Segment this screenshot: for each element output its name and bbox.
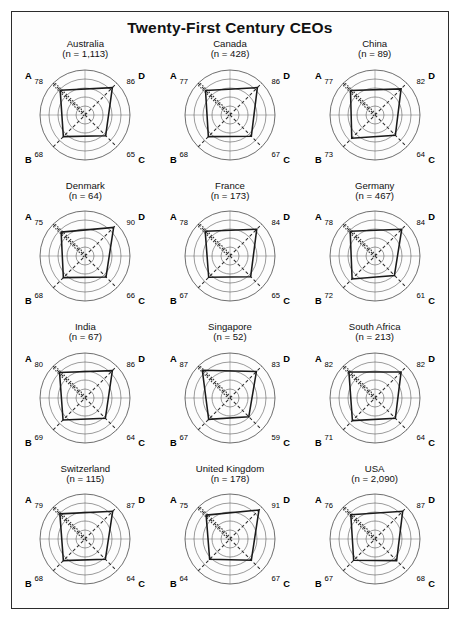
axis-value-d: 86 (127, 77, 135, 86)
axis-label-a: A (315, 495, 322, 505)
axis-label-b: B (25, 438, 32, 448)
radar-panel: USA(n = 2,090)A76D87B67C68 (302, 463, 447, 605)
axis-label-d: D (283, 495, 290, 505)
radar-panel: Australia(n = 1,113)A78D86B68C65 (13, 38, 158, 180)
radar-panel: India(n = 67)A80D86B69C64 (13, 321, 158, 463)
axis-value-c: 64 (416, 433, 424, 442)
radar-panel: Switzerland(n = 115)A79D87B68C64 (13, 463, 158, 605)
axis-label-a: A (25, 71, 32, 81)
axis-label-c: C (428, 438, 435, 448)
axis-label-b: B (315, 438, 322, 448)
axis-value-b: 67 (179, 433, 187, 442)
axis-value-d: 87 (127, 501, 135, 510)
axis-label-a: A (25, 495, 32, 505)
axis-value-a: 78 (35, 77, 43, 86)
axis-value-c: 67 (272, 150, 280, 159)
axis-value-c: 67 (272, 574, 280, 583)
axis-label-d: D (428, 495, 435, 505)
axis-label-d: D (428, 212, 435, 222)
radar-plot: A87D83B67C59 (166, 342, 294, 454)
axis-value-c: 65 (127, 150, 135, 159)
axis-value-b: 68 (35, 150, 43, 159)
axis-label-d: D (428, 354, 435, 364)
axis-value-c: 68 (416, 574, 424, 583)
axis-label-a: A (170, 354, 177, 364)
axis-label-c: C (139, 155, 146, 165)
axis-label-d: D (139, 354, 146, 364)
radar-plot: A75D91B64C67 (166, 483, 294, 595)
axis-value-b: 67 (179, 291, 187, 300)
axis-value-d: 87 (416, 501, 424, 510)
axis-value-c: 64 (127, 574, 135, 583)
axis-label-b: B (25, 579, 32, 589)
axis-value-a: 76 (324, 501, 332, 510)
axis-label-d: D (428, 71, 435, 81)
axis-label-a: A (25, 354, 32, 364)
axis-label-a: A (170, 495, 177, 505)
radar-plot: A78D86B68C65 (21, 59, 149, 171)
axis-label-d: D (283, 212, 290, 222)
axis-value-a: 82 (324, 360, 332, 369)
radar-data-polygon (202, 370, 256, 419)
axis-label-c: C (283, 296, 290, 306)
axis-value-c: 59 (272, 433, 280, 442)
page-title: Twenty-First Century CEOs (12, 19, 448, 37)
axis-value-b: 72 (324, 291, 332, 300)
axis-value-b: 69 (35, 433, 43, 442)
axis-label-a: A (315, 212, 322, 222)
radar-panel: Germany(n = 467)A78D84B72C61 (302, 180, 447, 322)
figure-panel: Twenty-First Century CEOs Australia(n = … (11, 11, 449, 609)
radar-panel: United Kingdom(n = 178)A75D91B64C67 (158, 463, 303, 605)
axis-value-b: 68 (179, 150, 187, 159)
axis-value-a: 78 (179, 218, 187, 227)
axis-label-b: B (25, 155, 32, 165)
axis-label-c: C (283, 579, 290, 589)
axis-label-b: B (170, 438, 177, 448)
radar-plot: A78D84B72C61 (311, 200, 439, 312)
axis-label-c: C (283, 438, 290, 448)
axis-value-d: 86 (127, 360, 135, 369)
axis-value-c: 66 (127, 291, 135, 300)
radar-plot: A75D90B68C66 (21, 200, 149, 312)
radar-panel: Denmark(n = 64)A75D90B68C66 (13, 180, 158, 322)
axis-label-b: B (170, 296, 177, 306)
axis-value-c: 64 (127, 433, 135, 442)
axis-value-a: 77 (179, 77, 187, 86)
axis-label-d: D (139, 495, 146, 505)
axis-label-c: C (139, 296, 146, 306)
axis-label-c: C (428, 296, 435, 306)
axis-label-a: A (315, 354, 322, 364)
axis-label-b: B (170, 579, 177, 589)
axis-label-c: C (139, 438, 146, 448)
axis-value-d: 82 (416, 360, 424, 369)
axis-value-a: 79 (35, 501, 43, 510)
axis-value-a: 87 (179, 360, 187, 369)
axis-value-b: 67 (324, 574, 332, 583)
axis-value-a: 80 (35, 360, 43, 369)
axis-label-a: A (25, 212, 32, 222)
axis-label-d: D (139, 71, 146, 81)
axis-value-d: 91 (272, 501, 280, 510)
radar-plot: A80D86B69C64 (21, 342, 149, 454)
radar-panel: China(n = 89)A77D82B73C64 (302, 38, 447, 180)
axis-value-b: 64 (179, 574, 187, 583)
axis-value-d: 84 (416, 218, 424, 227)
axis-label-d: D (283, 354, 290, 364)
radar-plot: A82D82B71C64 (311, 342, 439, 454)
axis-value-b: 73 (324, 150, 332, 159)
radar-chart-grid: Australia(n = 1,113)A78D86B68C65Canada(n… (12, 38, 448, 604)
axis-value-a: 77 (324, 77, 332, 86)
radar-plot: A77D82B73C64 (311, 59, 439, 171)
axis-value-d: 90 (127, 218, 135, 227)
radar-panel: France(n = 173)A78D84B67C65 (158, 180, 303, 322)
radar-panel: South Africa(n = 213)A82D82B71C64 (302, 321, 447, 463)
axis-label-d: D (139, 212, 146, 222)
axis-label-d: D (283, 71, 290, 81)
axis-label-b: B (315, 155, 322, 165)
axis-value-b: 68 (35, 574, 43, 583)
axis-label-c: C (283, 155, 290, 165)
radar-panel: Canada(n = 428)A77D86B68C67 (158, 38, 303, 180)
axis-label-b: B (315, 296, 322, 306)
axis-value-a: 78 (324, 218, 332, 227)
axis-value-d: 84 (272, 218, 280, 227)
